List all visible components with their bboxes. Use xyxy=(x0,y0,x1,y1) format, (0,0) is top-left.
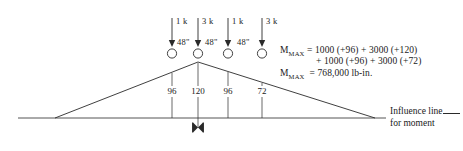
load-label-4: 3 k xyxy=(266,17,278,26)
load-arrow-head-1 xyxy=(169,40,175,47)
equation-line-3: MMAX = 768,000 lb-in. xyxy=(280,69,372,80)
influence-line-leader-rule xyxy=(443,113,460,114)
spacing-label-2: 48" xyxy=(205,38,218,47)
load-arrow-head-3 xyxy=(225,40,231,47)
ordinate-value-1: 96 xyxy=(168,87,177,96)
load-label-3: 1 k xyxy=(232,17,244,26)
influence-line-caption-line-2: for moment xyxy=(390,118,435,130)
equation-body-1: = 1000 (+96) + 3000 (+120) xyxy=(307,45,417,55)
equation-subscript-1: MAX xyxy=(289,50,305,57)
equation-body-3: = 768,000 lb-in. xyxy=(310,68,373,78)
wheel-circle-1 xyxy=(167,49,176,58)
spacing-label-1: 48" xyxy=(177,38,190,47)
load-label-1: 1 k xyxy=(176,17,188,26)
wheel-circle-3 xyxy=(223,49,232,58)
ordinate-value-3: 96 xyxy=(224,87,233,96)
equation-symbol-2: M xyxy=(280,68,289,78)
equation-subscript-2: MAX xyxy=(289,73,305,80)
influence-line-caption-line-1: Influence line xyxy=(390,106,443,118)
ordinate-value-2: 120 xyxy=(191,87,205,96)
equation-symbol-1: M xyxy=(280,45,289,55)
wheel-circle-4 xyxy=(257,49,266,58)
influence-line-left-leg xyxy=(55,62,198,118)
wheel-circle-2 xyxy=(193,49,202,58)
load-arrow-head-4 xyxy=(259,40,265,47)
spacing-label-3: 48" xyxy=(237,38,250,47)
influence-line-figure: 1 k 3 k 1 k 3 k 48" 48" 48" 96 120 96 72… xyxy=(0,0,463,151)
load-arrow-head-2 xyxy=(195,40,201,47)
load-label-2: 3 k xyxy=(202,17,214,26)
equation-line-2: + 1000 (+96) + 3000 (+72) xyxy=(316,57,421,67)
ordinate-value-4: 72 xyxy=(258,87,267,96)
